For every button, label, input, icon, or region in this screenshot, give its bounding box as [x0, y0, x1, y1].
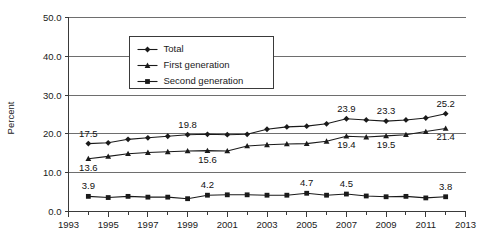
data-label: 23.3: [377, 105, 396, 116]
marker-square: [126, 194, 131, 199]
y-tick-label: 30.0: [43, 90, 62, 101]
y-tick-label: 20.0: [43, 128, 62, 139]
marker-square: [205, 193, 210, 198]
x-tick-label: 1993: [58, 219, 79, 230]
x-tick-label: 2001: [217, 219, 238, 230]
x-axis-tick-labels: 1993199519971999200120032005200720092011…: [58, 219, 476, 230]
data-label: 3.9: [82, 180, 95, 191]
marker-diamond: [304, 123, 310, 129]
marker-diamond: [205, 131, 211, 137]
marker-square: [284, 193, 289, 198]
marker-diamond: [105, 140, 111, 146]
data-label: 4.7: [300, 177, 313, 188]
marker-diamond: [244, 131, 250, 137]
x-tick-label: 1997: [137, 219, 158, 230]
marker-diamond: [443, 111, 449, 117]
y-tick-label: 50.0: [43, 12, 62, 23]
x-tick-label: 2009: [376, 219, 397, 230]
data-label: 17.5: [79, 128, 98, 139]
marker-diamond: [125, 136, 131, 142]
data-label: 15.6: [198, 154, 217, 165]
marker-diamond: [145, 135, 151, 141]
marker-square: [443, 194, 448, 199]
chart-container: 0.010.020.030.040.050.0 1993199519971999…: [0, 0, 479, 240]
marker-diamond: [324, 121, 330, 127]
marker-triangle: [443, 126, 449, 131]
legend-label-1: First generation: [164, 59, 230, 70]
marker-diamond: [363, 117, 369, 123]
x-tick-label: 2007: [336, 219, 357, 230]
x-tick-label: 1995: [98, 219, 119, 230]
marker-square: [423, 196, 428, 201]
marker-square: [364, 194, 369, 199]
marker-diamond: [185, 132, 191, 138]
y-tick-label: 10.0: [43, 167, 62, 178]
marker-square: [344, 192, 349, 197]
x-tick-label: 2003: [256, 219, 277, 230]
data-label: 4.5: [340, 178, 353, 189]
y-axis-title: Percent: [5, 101, 16, 134]
marker-diamond: [224, 132, 230, 138]
line-chart: 0.010.020.030.040.050.0 1993199519971999…: [0, 0, 479, 240]
y-tick-label: 0.0: [48, 206, 61, 217]
marker-diamond: [284, 124, 290, 130]
marker-square: [106, 195, 111, 200]
marker-diamond: [383, 118, 389, 124]
data-label: 19.4: [337, 139, 356, 150]
data-label: 13.6: [79, 162, 98, 173]
x-tick-label: 2011: [416, 219, 436, 230]
marker-square: [225, 192, 230, 197]
marker-square: [165, 195, 170, 200]
data-label: 3.8: [439, 181, 452, 192]
legend-label-2: Second generation: [164, 75, 244, 86]
chart-legend: TotalFirst generationSecond generation: [130, 37, 274, 89]
marker-diamond: [264, 126, 270, 132]
data-label: 19.5: [377, 139, 396, 150]
data-label: 19.8: [178, 119, 197, 130]
series-markers: [85, 111, 448, 201]
y-axis-tick-labels: 0.010.020.030.040.050.0: [43, 12, 62, 217]
data-label: 23.9: [337, 103, 356, 114]
x-tick-label: 1999: [177, 219, 198, 230]
marker-diamond: [423, 115, 429, 121]
marker-diamond: [85, 141, 91, 147]
data-label: 25.2: [436, 98, 455, 109]
x-tick-marks: [69, 212, 466, 217]
marker-square: [384, 194, 389, 199]
data-label: 21.4: [436, 131, 455, 142]
y-tick-label: 40.0: [43, 51, 62, 62]
y-tick-marks: [65, 18, 69, 212]
marker-square: [324, 193, 329, 198]
legend-label-0: Total: [164, 43, 184, 54]
marker-square: [265, 193, 270, 198]
marker-square: [86, 194, 91, 199]
marker-square: [304, 191, 309, 196]
marker-diamond: [344, 116, 350, 122]
marker-square: [185, 196, 190, 201]
marker-square: [245, 192, 250, 197]
x-tick-label: 2013: [455, 219, 476, 230]
marker-square: [145, 79, 150, 84]
marker-square: [404, 194, 409, 199]
x-tick-label: 2005: [296, 219, 317, 230]
marker-square: [146, 195, 151, 200]
data-label: 4.2: [201, 179, 214, 190]
marker-diamond: [403, 117, 409, 123]
